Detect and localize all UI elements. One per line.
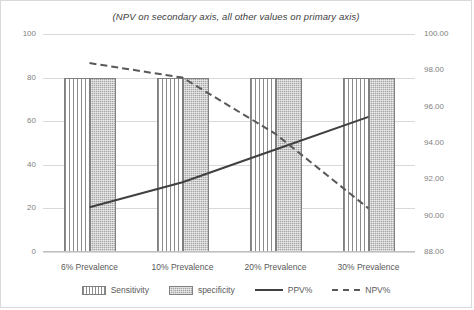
secondary-axis-tick: 98.00 (424, 66, 444, 74)
category-label: 30% Prevalence (322, 262, 415, 272)
legend-swatch-solid-line (255, 289, 283, 291)
legend-swatch-dashed-line (332, 289, 360, 291)
legend-swatch-dotted (169, 286, 193, 295)
legend-item-sensitivity[interactable]: Sensitivity (82, 285, 149, 295)
category-axis-line (43, 251, 415, 252)
legend-item-npv[interactable]: NPV% (332, 285, 390, 295)
primary-axis-tick: 60 (27, 117, 36, 125)
legend-item-specificity[interactable]: specificity (169, 285, 235, 295)
series-line-ppv (90, 117, 369, 207)
secondary-axis-tick: 90.00 (424, 212, 444, 220)
legend-label: NPV% (365, 285, 390, 295)
primary-axis-tick: 80 (27, 74, 36, 82)
legend-item-ppv[interactable]: PPV% (255, 285, 313, 295)
secondary-axis-tick: 94.00 (424, 139, 444, 147)
secondary-axis-tick: 100.00 (424, 30, 448, 38)
primary-axis-tick: 20 (27, 204, 36, 212)
category-label: 6% Prevalence (43, 262, 136, 272)
category-label: 10% Prevalence (136, 262, 229, 272)
legend-label: Sensitivity (111, 285, 149, 295)
plot-area: 020406080100 88.0090.0092.0094.0096.0098… (43, 34, 415, 252)
primary-axis-tick: 40 (27, 161, 36, 169)
primary-axis-tick: 0 (32, 248, 36, 256)
category-label: 20% Prevalence (229, 262, 322, 272)
legend-label: specificity (198, 285, 235, 295)
line-series-layer (43, 34, 415, 252)
secondary-axis-tick: 92.00 (424, 175, 444, 183)
chart-title: (NPV on secondary axis, all other values… (1, 11, 471, 22)
chart-legend: SensitivityspecificityPPV%NPV% (1, 285, 471, 295)
legend-swatch-striped (82, 286, 106, 295)
secondary-axis-tick: 88.00 (424, 248, 444, 256)
chart-container: (NPV on secondary axis, all other values… (0, 0, 472, 308)
gridline (43, 252, 415, 253)
primary-axis-tick: 100 (23, 30, 36, 38)
legend-label: PPV% (288, 285, 313, 295)
series-line-npv (90, 63, 369, 208)
secondary-axis-tick: 96.00 (424, 103, 444, 111)
